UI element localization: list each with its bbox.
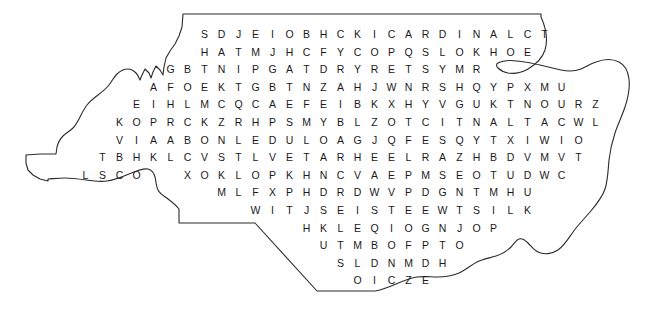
letter-cell: Y bbox=[468, 132, 485, 149]
letter-cell: T bbox=[434, 237, 451, 254]
letter-cell: A bbox=[332, 79, 349, 96]
letter-cell: K bbox=[213, 79, 230, 96]
letter-cell: M bbox=[451, 61, 468, 78]
letter-cell: F bbox=[315, 44, 332, 61]
letter-cell: K bbox=[519, 202, 536, 219]
letter-cell: C bbox=[247, 96, 264, 113]
letter-cell: A bbox=[145, 132, 162, 149]
letter-cell: C bbox=[383, 272, 400, 289]
letter-cell: B bbox=[111, 149, 128, 166]
letter-cell: H bbox=[468, 149, 485, 166]
letter-cell: U bbox=[315, 237, 332, 254]
letter-cell: G bbox=[451, 96, 468, 113]
letter-cell: E bbox=[417, 272, 434, 289]
letter-cell: M bbox=[349, 237, 366, 254]
letter-cell: C bbox=[213, 96, 230, 113]
letter-cell: E bbox=[383, 167, 400, 184]
letter-cell: P bbox=[383, 44, 400, 61]
letter-cell: Z bbox=[366, 114, 383, 131]
letter-cell: O bbox=[570, 132, 587, 149]
letter-cell: V bbox=[383, 184, 400, 201]
letter-cell: E bbox=[247, 26, 264, 43]
letter-cell: L bbox=[502, 202, 519, 219]
letter-cell: L bbox=[77, 167, 94, 184]
letter-cell: F bbox=[162, 79, 179, 96]
letter-cell: B bbox=[179, 61, 196, 78]
letter-cell: H bbox=[162, 96, 179, 113]
letter-cell: O bbox=[196, 167, 213, 184]
letter-cell: L bbox=[230, 184, 247, 201]
letter-cell: O bbox=[315, 132, 332, 149]
letter-cell: P bbox=[247, 61, 264, 78]
letter-cell: I bbox=[519, 132, 536, 149]
letter-cell: B bbox=[298, 26, 315, 43]
letter-cell: Z bbox=[587, 96, 604, 113]
letter-cell: I bbox=[485, 202, 502, 219]
word-search-puzzle: SDJEIOBHCKICARDINALCTHATMJHCFYCOPQSLOKHO… bbox=[0, 0, 648, 319]
letter-cell: W bbox=[247, 202, 264, 219]
letter-cell: I bbox=[264, 202, 281, 219]
letter-cell: H bbox=[451, 79, 468, 96]
letter-cell: E bbox=[383, 61, 400, 78]
letter-cell: A bbox=[485, 26, 502, 43]
letter-cell: L bbox=[247, 149, 264, 166]
letter-cell: D bbox=[315, 61, 332, 78]
letter-cell: N bbox=[451, 184, 468, 201]
letter-cell: W bbox=[383, 79, 400, 96]
letter-cell: O bbox=[468, 167, 485, 184]
letter-cell: J bbox=[264, 44, 281, 61]
letter-cell: F bbox=[298, 96, 315, 113]
letter-cell: R bbox=[417, 26, 434, 43]
letter-cell: K bbox=[145, 149, 162, 166]
letter-cell: C bbox=[383, 26, 400, 43]
letter-cell: A bbox=[145, 79, 162, 96]
letter-cell: V bbox=[264, 149, 281, 166]
letter-cell: J bbox=[451, 220, 468, 237]
letter-cell: K bbox=[213, 167, 230, 184]
letter-cell: Y bbox=[349, 61, 366, 78]
letter-cell: H bbox=[298, 220, 315, 237]
letter-cell: I bbox=[366, 26, 383, 43]
letter-cell: C bbox=[553, 167, 570, 184]
letter-cell: Z bbox=[213, 114, 230, 131]
letter-cell: E bbox=[315, 96, 332, 113]
letter-cell: M bbox=[536, 79, 553, 96]
letter-cell: C bbox=[179, 149, 196, 166]
letter-cell: I bbox=[451, 26, 468, 43]
letter-cell: O bbox=[196, 132, 213, 149]
letter-cell: D bbox=[366, 255, 383, 272]
letter-cell: L bbox=[349, 255, 366, 272]
letter-cell: B bbox=[264, 79, 281, 96]
letter-cell: H bbox=[485, 44, 502, 61]
letter-cell: X bbox=[264, 184, 281, 201]
letter-cell: G bbox=[417, 220, 434, 237]
letter-cell: O bbox=[451, 237, 468, 254]
letter-cell: L bbox=[434, 44, 451, 61]
letter-cell: A bbox=[400, 26, 417, 43]
letter-cell: E bbox=[417, 132, 434, 149]
letter-cell: G bbox=[247, 79, 264, 96]
letter-cell: L bbox=[230, 167, 247, 184]
letter-cell: O bbox=[502, 44, 519, 61]
letter-cell: H bbox=[298, 167, 315, 184]
letter-cell: H bbox=[349, 79, 366, 96]
letter-cell: W bbox=[366, 184, 383, 201]
letter-cell: M bbox=[196, 96, 213, 113]
letter-cell: D bbox=[417, 184, 434, 201]
letter-cell: C bbox=[179, 114, 196, 131]
letter-cell: E bbox=[366, 149, 383, 166]
letter-cell: T bbox=[485, 167, 502, 184]
letter-cell: G bbox=[264, 61, 281, 78]
letter-cell: U bbox=[468, 96, 485, 113]
letter-cell: A bbox=[213, 44, 230, 61]
letter-cell: C bbox=[111, 167, 128, 184]
letter-cell: S bbox=[417, 61, 434, 78]
letter-cell: T bbox=[485, 132, 502, 149]
letter-cell: N bbox=[400, 79, 417, 96]
letter-cell: S bbox=[468, 202, 485, 219]
letter-cell: H bbox=[349, 149, 366, 166]
letter-cell: N bbox=[298, 79, 315, 96]
letter-cell: E bbox=[332, 202, 349, 219]
letter-cell: X bbox=[383, 96, 400, 113]
letter-cell: A bbox=[366, 167, 383, 184]
